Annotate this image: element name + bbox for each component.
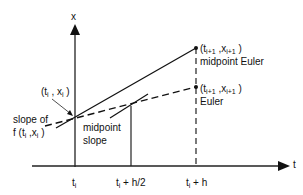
midpoint-slope-label-2: slope	[83, 135, 107, 146]
midpoint-slope-label-1: midpoint	[83, 122, 121, 133]
midpoint-euler-caption: midpoint Euler	[200, 56, 264, 67]
midpoint-euler-line	[56, 48, 196, 128]
slope-f-label: f (ti ,xi )	[13, 127, 44, 138]
t-axis-label: t	[293, 159, 296, 170]
slope-of-label: slope of	[13, 114, 48, 125]
euler-coord-label: (ti+1 ,xi+1 )	[200, 83, 242, 94]
diagram-canvas	[0, 0, 303, 195]
start-point-label: (ti , xi )	[41, 86, 70, 97]
tick-label-ti: ti	[72, 177, 76, 188]
euler-caption: Euler	[200, 96, 223, 107]
euler-point	[194, 85, 198, 89]
t-axis-arrow-icon	[278, 161, 290, 171]
midpoint-euler-coord-label: (ti+1 ,xi+1 )	[200, 43, 242, 54]
x-axis-label: x	[71, 11, 76, 22]
start-pointer	[52, 99, 71, 114]
start-pointer-arrow-icon	[67, 110, 73, 116]
tick-label-ti-half-h: ti + h/2	[116, 177, 146, 188]
tick-label-ti-h: ti + h	[186, 177, 207, 188]
x-axis-arrow-icon	[70, 24, 80, 35]
midpoint-euler-point	[194, 46, 198, 50]
midpoint-slope-segment	[110, 94, 148, 118]
